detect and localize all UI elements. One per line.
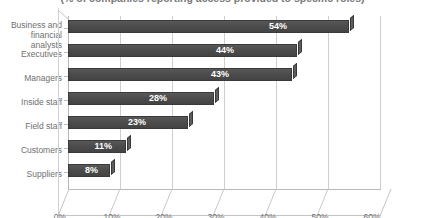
bar-value-label: 28% xyxy=(68,92,214,105)
bar-value-label: 44% xyxy=(68,44,297,57)
bar-value-label: 8% xyxy=(68,164,110,177)
top-left-depth-connector xyxy=(58,7,70,18)
category-label-0: Business and financial analysts xyxy=(0,20,62,50)
bar-value-label: 54% xyxy=(68,20,349,33)
x-tick-label-6: 60% xyxy=(357,212,387,218)
plot-area: 54% 44% 43% 28% 23% 11% 8% 0% 10% xyxy=(68,16,381,189)
bar-value-label: 43% xyxy=(68,68,292,81)
chart-title: (% of companies reporting access provide… xyxy=(0,0,425,4)
bar-value-label: 11% xyxy=(68,140,126,153)
x-tick-label-2: 20% xyxy=(149,212,179,218)
gridline-40 xyxy=(276,16,277,189)
gridline-50 xyxy=(328,16,329,189)
category-label-5: Customers xyxy=(0,145,62,155)
category-label-1: Executives xyxy=(0,49,62,59)
x-tick-label-3: 30% xyxy=(201,212,231,218)
x-tick-label-1: 10% xyxy=(97,212,127,218)
category-label-2: Managers xyxy=(0,73,62,83)
category-label-6: Suppliers xyxy=(0,169,62,179)
bar-chart: (% of companies reporting access provide… xyxy=(0,0,425,218)
x-tick-label-5: 50% xyxy=(305,212,335,218)
gridline-30 xyxy=(224,16,225,189)
category-label-4: Field staff xyxy=(0,121,62,131)
gridline-60 xyxy=(380,16,381,189)
x-tick-label-0: 0% xyxy=(45,212,75,218)
bar-value-label: 23% xyxy=(68,116,188,129)
left-wall-edge xyxy=(58,8,59,216)
category-label-3: Inside staff xyxy=(0,97,62,107)
x-tick-label-4: 40% xyxy=(253,212,283,218)
